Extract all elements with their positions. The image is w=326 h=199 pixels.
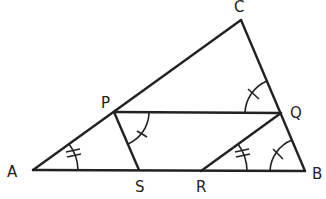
geometry-diagram: C P Q A B S R	[0, 0, 326, 199]
angle-mark-a	[66, 144, 81, 170]
angle-mark-b	[270, 140, 292, 171]
segment-ac	[33, 20, 241, 170]
label-p: P	[101, 94, 110, 112]
segment-qr	[201, 113, 281, 171]
label-r: R	[196, 178, 206, 196]
label-s: S	[135, 178, 145, 196]
segment-ps	[114, 112, 139, 170]
label-a: A	[7, 163, 18, 181]
angle-mark-p	[128, 113, 149, 144]
segment-ab	[33, 170, 305, 171]
label-q: Q	[290, 104, 302, 122]
label-c: C	[234, 0, 244, 16]
angle-mark-r	[235, 144, 250, 171]
angle-mark-q	[245, 81, 267, 113]
segment-pq	[114, 112, 281, 113]
label-b: B	[312, 165, 322, 183]
